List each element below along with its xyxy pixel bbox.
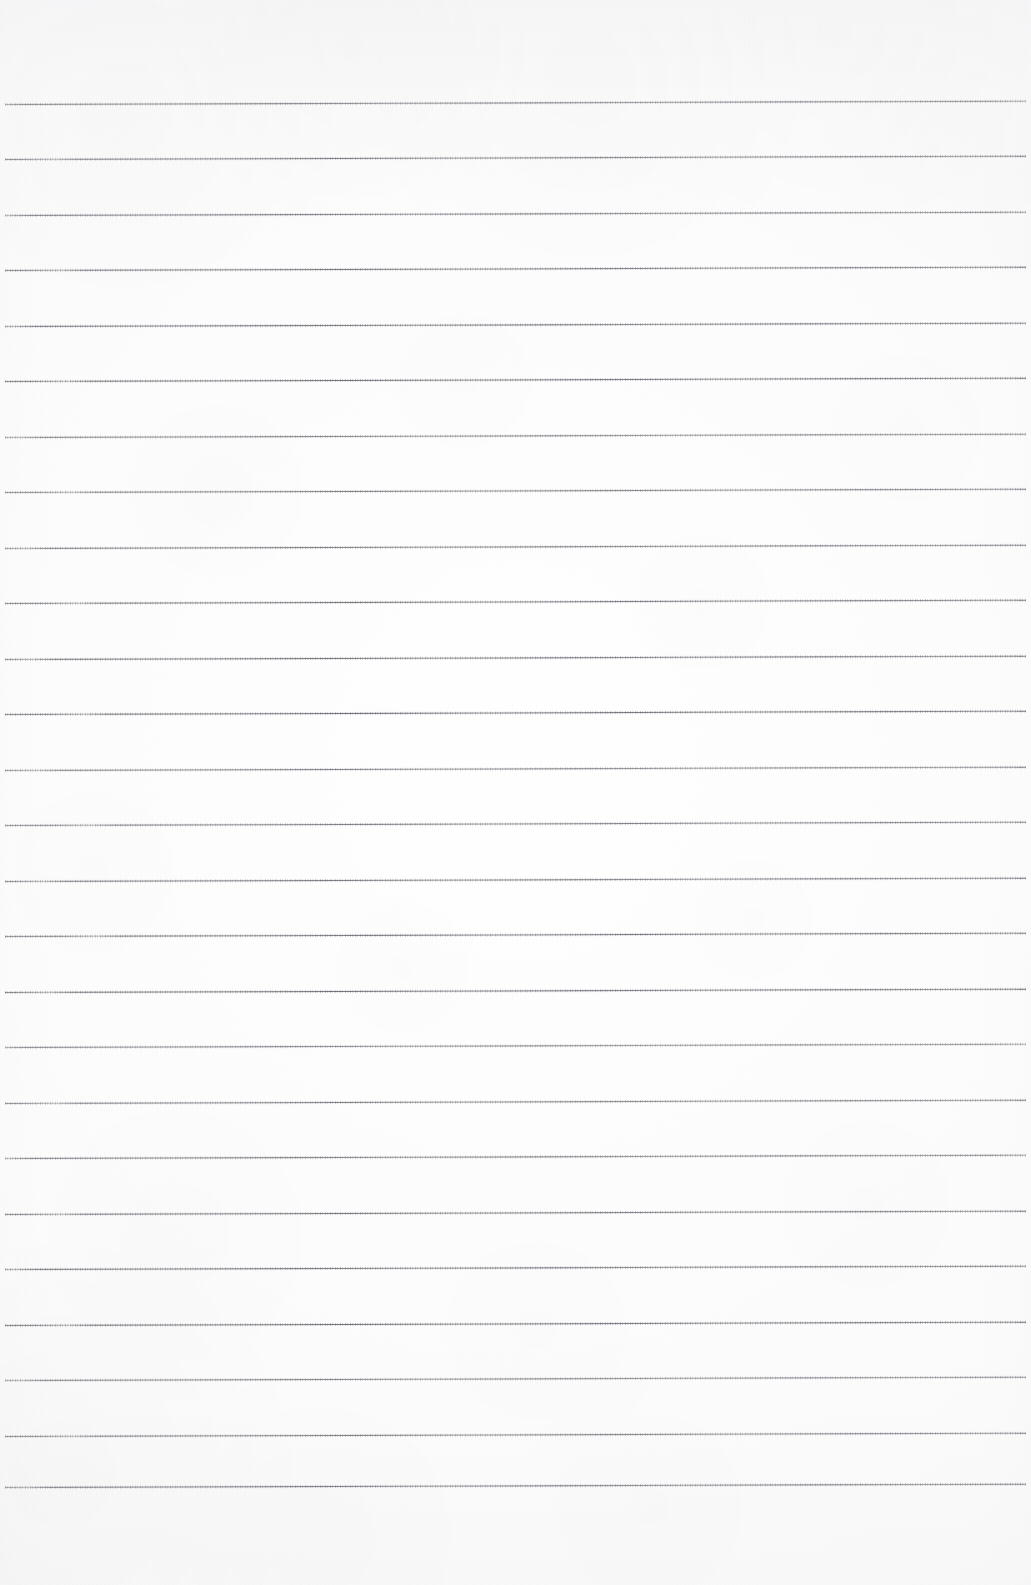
ruled-line (5, 488, 1026, 494)
ruled-line (5, 1265, 1026, 1271)
ruled-line (5, 599, 1026, 605)
ruled-line (5, 1154, 1026, 1160)
ruled-line-ink (5, 211, 1026, 215)
ruled-line (5, 654, 1026, 660)
ruled-line (5, 99, 1026, 105)
ruled-line (5, 432, 1026, 438)
ruled-line (5, 1320, 1026, 1326)
ruled-line (5, 1431, 1026, 1437)
ruled-line (5, 321, 1026, 327)
ruled-line (5, 1043, 1026, 1049)
ruled-line (5, 987, 1026, 993)
ruled-line (5, 1209, 1026, 1215)
ruled-line (5, 1098, 1026, 1104)
ruled-line-ink (5, 433, 1026, 437)
scanned-page (0, 0, 1031, 1585)
ruled-line-ink (5, 1099, 1026, 1103)
ruled-line (5, 876, 1026, 882)
ruled-line (5, 765, 1026, 771)
ruled-line (5, 932, 1026, 938)
ruled-line (5, 210, 1026, 216)
ruled-line (5, 543, 1026, 549)
ruled-line-ink (5, 100, 1026, 104)
ruled-line (5, 1376, 1026, 1382)
ruled-line-ink (5, 544, 1026, 548)
ruled-line-ink (5, 988, 1026, 992)
ruled-lines-group (0, 0, 1031, 1585)
ruled-line (5, 155, 1026, 161)
ruled-line (5, 1482, 1026, 1488)
ruled-line (5, 710, 1026, 716)
ruled-line (5, 821, 1026, 827)
ruled-line (5, 377, 1026, 383)
ruled-line-ink (5, 655, 1026, 659)
ruled-line-ink (5, 877, 1026, 881)
ruled-line-ink (5, 766, 1026, 770)
ruled-line-ink (5, 1432, 1026, 1436)
ruled-line-ink (5, 1483, 1026, 1487)
ruled-line-ink (5, 1321, 1026, 1325)
ruled-line (5, 266, 1026, 272)
ruled-line-ink (5, 1210, 1026, 1214)
ruled-line-ink (5, 322, 1026, 326)
